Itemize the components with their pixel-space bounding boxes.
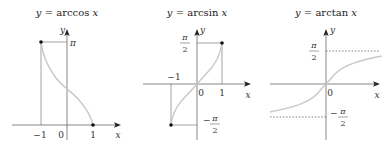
- pi-label: π: [69, 38, 77, 48]
- x-axis-label: x: [374, 90, 379, 100]
- y-axis-label: y: [59, 25, 66, 35]
- half-pi-denominator: 2: [311, 53, 316, 62]
- zero-label: 0: [327, 88, 333, 98]
- panel-title: y = arccos x: [35, 7, 99, 18]
- endpoint-one-half-pi: [220, 41, 224, 45]
- panel-title: y = arctan x: [294, 7, 357, 18]
- zero-label: 0: [58, 130, 64, 140]
- panel-arcsin: y = arcsin x y π 2 −1 0 1 x − π 2: [143, 7, 251, 140]
- one-label: 1: [90, 130, 96, 140]
- endpoint-one-zero: [91, 123, 95, 127]
- panel-title: y = arcsin x: [166, 7, 228, 18]
- neg-one-label: −1: [167, 72, 180, 82]
- half-pi-numerator: π: [181, 33, 188, 42]
- neg-half-pi-numerator: π: [211, 114, 218, 123]
- x-axis-label: x: [115, 130, 120, 140]
- neg-half-pi-minus: −: [203, 115, 211, 125]
- neg-one-label: −1: [33, 130, 46, 140]
- y-axis-label: y: [329, 25, 336, 35]
- neg-half-pi-denominator: 2: [212, 126, 217, 135]
- endpoint-neg-one-pi: [39, 40, 43, 44]
- half-pi-numerator: π: [310, 41, 317, 50]
- y-axis-label: y: [199, 25, 206, 35]
- one-label: 1: [219, 88, 225, 98]
- inverse-trig-figure: y = arccos x y π −1 0 1 x y = arcsin x: [0, 0, 389, 149]
- panel-arccos: y = arccos x y π −1 0 1 x: [12, 7, 121, 140]
- neg-half-pi-numerator: π: [339, 107, 346, 116]
- x-axis-label: x: [245, 90, 250, 100]
- neg-half-pi-denominator: 2: [340, 119, 345, 128]
- neg-half-pi-minus: −: [330, 108, 338, 118]
- panel-arctan: y = arctan x y π 2 0 x − π 2: [270, 7, 382, 140]
- zero-label: 0: [198, 88, 204, 98]
- half-pi-denominator: 2: [182, 45, 187, 54]
- endpoint-neg-one-neg-half-pi: [169, 123, 173, 127]
